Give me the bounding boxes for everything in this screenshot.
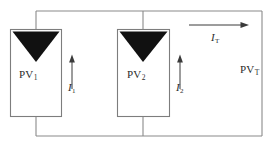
it-arrow-head-icon bbox=[241, 22, 250, 28]
current-arrow-it bbox=[189, 22, 249, 28]
current-label-it: IT bbox=[211, 32, 219, 45]
pv2-label: PV2 bbox=[127, 69, 146, 82]
pv2-label-subscript: 2 bbox=[141, 73, 145, 82]
i1-label-subscript: 1 bbox=[72, 87, 76, 95]
pvt-label-base: PV bbox=[240, 63, 254, 75]
current-label-i1: I1 bbox=[68, 82, 75, 95]
circuit-diagram: PV1 PV2 I1 I2 IT PVT bbox=[0, 0, 280, 148]
pv2-label-base: PV bbox=[127, 68, 141, 80]
pvt-output-label: PVT bbox=[240, 64, 259, 77]
pvt-label-subscript: T bbox=[254, 68, 259, 77]
i1-arrow-head-icon bbox=[69, 55, 75, 63]
it-label-subscript: T bbox=[215, 37, 220, 45]
pv1-label-base: PV bbox=[19, 68, 33, 80]
pv1-label-subscript: 1 bbox=[33, 73, 37, 82]
pv1-label: PV1 bbox=[19, 69, 38, 82]
i2-arrow-head-icon bbox=[177, 55, 183, 63]
i2-label-subscript: 2 bbox=[180, 87, 184, 95]
current-label-i2: I2 bbox=[176, 82, 183, 95]
